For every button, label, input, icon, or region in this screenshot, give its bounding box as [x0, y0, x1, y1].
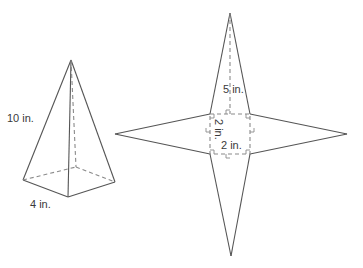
pyramid-base-edge-label: 4 in. [30, 199, 51, 210]
figure-canvas: 10 in. 4 in. 5 in. 2 in. 2 in. [0, 0, 363, 268]
net-square-side-horizontal-label: 2 in. [221, 140, 242, 151]
pyramid-slant-height-label: 10 in. [7, 113, 34, 124]
diagram-svg [0, 0, 363, 268]
net-triangle-height-label: 5 in. [223, 84, 244, 95]
net-square-side-vertical-label: 2 in. [213, 119, 224, 140]
square-pyramid [23, 60, 115, 197]
pyramid-net [115, 13, 347, 256]
